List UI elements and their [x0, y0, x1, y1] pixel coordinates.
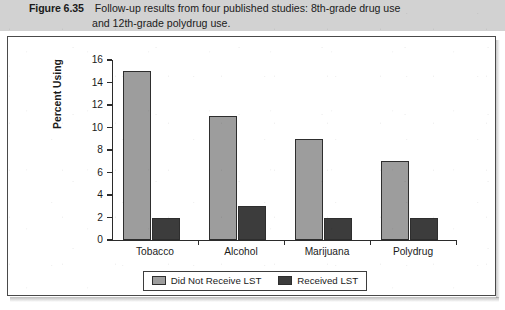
bar-tobacco-received-lst: [152, 218, 180, 241]
legend-label-did-not-receive-lst: Did Not Receive LST: [171, 276, 261, 286]
x-axis-category-label: Tobacco: [136, 246, 174, 257]
bar-chart-plot-area: 0246810121416TobaccoAlcoholMarijuanaPoly…: [112, 60, 456, 240]
y-axis-tick-label: 12: [92, 100, 103, 110]
bar-marijuana-received-lst: [324, 218, 352, 241]
x-axis-category-label: Alcohol: [224, 246, 257, 257]
x-axis-tick: [284, 240, 285, 245]
x-axis-category-label: Polydrug: [393, 246, 433, 257]
y-axis-tick-label: 0: [97, 235, 103, 245]
y-axis-tick-label: 16: [92, 55, 103, 65]
figure-page: Figure 6.35Follow-up results from four p…: [0, 0, 505, 310]
y-axis-tick: [107, 194, 112, 195]
y-axis-tick-label: 6: [97, 167, 103, 177]
y-axis-tick-label: 10: [92, 122, 103, 132]
panel-drop-shadow: [10, 297, 499, 302]
x-axis-tick: [456, 240, 457, 245]
bar-tobacco-did-not-receive-lst: [123, 71, 151, 240]
y-axis-tick: [107, 127, 112, 128]
y-axis-tick-label: 4: [97, 190, 103, 200]
x-axis-category-label: Marijuana: [305, 246, 350, 257]
y-axis-title: Percent Using: [52, 59, 63, 129]
y-axis-tick: [107, 104, 112, 105]
y-axis-tick: [107, 239, 112, 240]
y-axis-tick-label: 2: [97, 212, 103, 222]
bar-polydrug-did-not-receive-lst: [381, 161, 409, 240]
legend-swatch-icon-light: [152, 276, 166, 285]
bar-alcohol-did-not-receive-lst: [209, 116, 237, 240]
y-axis-tick: [107, 149, 112, 150]
bar-alcohol-received-lst: [238, 206, 266, 240]
y-axis-tick-label: 8: [97, 145, 103, 155]
chart-legend: Did Not Receive LST Received LST: [143, 271, 367, 291]
y-axis-line: [112, 60, 113, 240]
y-axis-tick: [107, 217, 112, 218]
y-axis-tick: [107, 59, 112, 60]
figure-caption: Figure 6.35Follow-up results from four p…: [29, 1, 497, 30]
legend-swatch-icon-dark: [278, 276, 292, 285]
y-axis-tick-label: 14: [92, 77, 103, 87]
legend-label-received-lst: Received LST: [297, 276, 358, 286]
caption-text-line-1: Follow-up results from four published st…: [95, 2, 401, 14]
caption-text-line-2: and 12th-grade polydrug use.: [92, 17, 230, 29]
bar-marijuana-did-not-receive-lst: [295, 139, 323, 240]
bar-polydrug-received-lst: [410, 218, 438, 241]
caption-line-1: Figure 6.35Follow-up results from four p…: [29, 1, 497, 16]
x-axis-tick: [198, 240, 199, 245]
legend-item-received-lst: Received LST: [278, 276, 358, 286]
legend-item-did-not-receive-lst: Did Not Receive LST: [152, 276, 261, 286]
panel-drop-shadow-right: [496, 40, 500, 298]
y-axis-tick: [107, 172, 112, 173]
figure-caption-band: Figure 6.35Follow-up results from four p…: [0, 0, 505, 31]
y-axis-tick: [107, 82, 112, 83]
caption-line-2: and 12th-grade polydrug use.: [29, 16, 497, 31]
x-axis-tick: [370, 240, 371, 245]
figure-number-label: Figure 6.35: [29, 2, 84, 14]
